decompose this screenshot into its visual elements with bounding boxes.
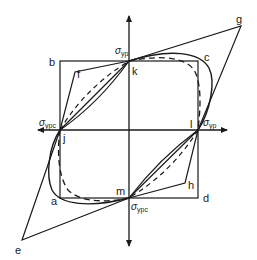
sigma-yp-top: σyp (115, 45, 129, 58)
hysteresis-diagram: b f k c g j l m h a d e σyp σypc σyp σyp… (0, 0, 257, 260)
label-k: k (132, 65, 138, 77)
label-a: a (51, 195, 58, 207)
label-d: d (203, 192, 209, 204)
label-b: b (49, 56, 55, 68)
label-l: l (190, 118, 192, 130)
label-f: f (77, 68, 81, 80)
sigma-yp-right: σyp (203, 117, 217, 130)
sigma-ypc-bottom: σypc (131, 201, 148, 214)
label-j: j (62, 132, 65, 144)
sigma-ypc-left: σypc (39, 117, 56, 130)
label-e: e (15, 244, 21, 256)
label-h: h (188, 179, 194, 191)
label-c: c (204, 51, 210, 63)
label-m: m (116, 185, 125, 197)
label-g: g (236, 13, 242, 25)
